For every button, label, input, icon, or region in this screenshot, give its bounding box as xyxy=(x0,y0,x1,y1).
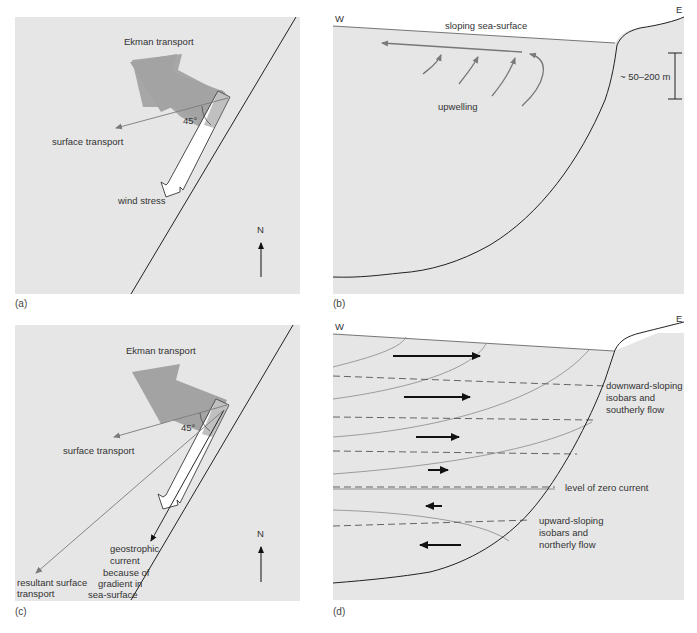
east-label: E xyxy=(676,4,682,15)
panel-a-caption: (a) xyxy=(15,298,27,309)
surface-transport-label: surface transport xyxy=(52,136,124,147)
downward-sloping-label-line-3: southerly flow xyxy=(606,404,664,415)
upwelling-label: upwelling xyxy=(438,101,478,112)
geostrophic-label-line-5: sea-surface xyxy=(88,589,138,600)
panel-b-caption: (b) xyxy=(333,298,345,309)
west-label: W xyxy=(335,13,344,24)
upwelling-figure: 45° Ekman transport surface transport wi… xyxy=(0,0,697,633)
north-label: N xyxy=(257,224,264,235)
upward-sloping-label-line-3: northerly flow xyxy=(539,539,596,550)
angle-label: 45° xyxy=(181,422,196,433)
upward-sloping-label-line-1: upward-sloping xyxy=(539,515,603,526)
zero-current-label: level of zero current xyxy=(565,482,649,493)
resultant-label-line-1: resultant surface xyxy=(17,577,87,588)
panel-b: W E sloping sea-surface upwelling ~ 50–2… xyxy=(333,4,684,309)
geostrophic-label-line-2: current xyxy=(110,555,140,566)
depth-scale-label: ~ 50–200 m xyxy=(620,71,671,82)
north-label: N xyxy=(257,528,264,539)
ekman-transport-label: Ekman transport xyxy=(124,36,194,47)
panel-d: W E downward-sloping isobars and souther… xyxy=(333,313,684,617)
upward-sloping-label-line-2: isobars and xyxy=(539,527,588,538)
sloping-sea-surface-label: sloping sea-surface xyxy=(445,20,527,31)
geostrophic-label-line-1: geostrophic xyxy=(110,543,159,554)
panel-c: 45° Ekman transport surface transport re… xyxy=(15,325,300,617)
panel-d-caption: (d) xyxy=(333,606,345,617)
geostrophic-label-line-4: gradient in xyxy=(98,578,142,589)
downward-sloping-label-line-2: isobars and xyxy=(606,392,655,403)
panel-c-background xyxy=(15,325,300,601)
angle-label: 45° xyxy=(183,115,198,126)
wind-stress-label: wind stress xyxy=(117,195,166,206)
ekman-transport-label: Ekman transport xyxy=(126,345,196,356)
west-label: W xyxy=(335,321,344,332)
resultant-label-line-2: transport xyxy=(17,588,55,599)
panel-a: 45° Ekman transport surface transport wi… xyxy=(15,17,300,309)
surface-transport-label: surface transport xyxy=(63,445,135,456)
downward-sloping-label-line-1: downward-sloping xyxy=(606,380,683,391)
geostrophic-label-line-3: because of xyxy=(103,567,150,578)
panel-c-caption: (c) xyxy=(15,606,27,617)
air-region-top xyxy=(333,322,684,333)
panel-b-background xyxy=(333,17,684,294)
panel-d-background xyxy=(333,333,684,600)
